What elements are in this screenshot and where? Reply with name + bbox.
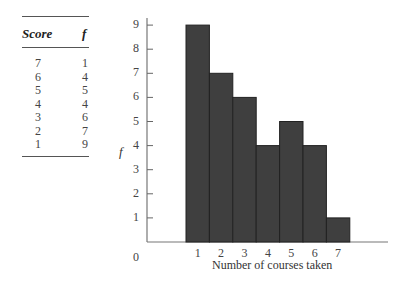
y-tick-label: 4 <box>133 138 139 153</box>
histogram-bar <box>186 25 209 242</box>
y-tick-label: 6 <box>133 89 139 104</box>
y-tick-label: 7 <box>133 65 139 80</box>
histogram-bar <box>303 146 326 242</box>
y-tick-label: 1 <box>133 210 139 225</box>
histogram-bar <box>326 218 349 242</box>
x-axis-label: Number of courses taken <box>212 258 332 273</box>
origin-label: 0 <box>133 250 139 265</box>
histogram-bar <box>209 73 232 242</box>
histogram-bar <box>256 146 279 242</box>
y-tick-label: 8 <box>133 41 139 56</box>
histogram <box>0 0 416 289</box>
y-tick-label: 3 <box>133 162 139 177</box>
y-tick-label: 9 <box>133 17 139 32</box>
histogram-bar <box>233 97 256 242</box>
y-tick-label: 5 <box>133 114 139 129</box>
x-tick-label: 7 <box>335 246 341 261</box>
y-tick-label: 2 <box>133 186 139 201</box>
x-tick-label: 1 <box>195 246 201 261</box>
histogram-bar <box>280 122 303 243</box>
y-axis-label: f <box>119 144 123 160</box>
